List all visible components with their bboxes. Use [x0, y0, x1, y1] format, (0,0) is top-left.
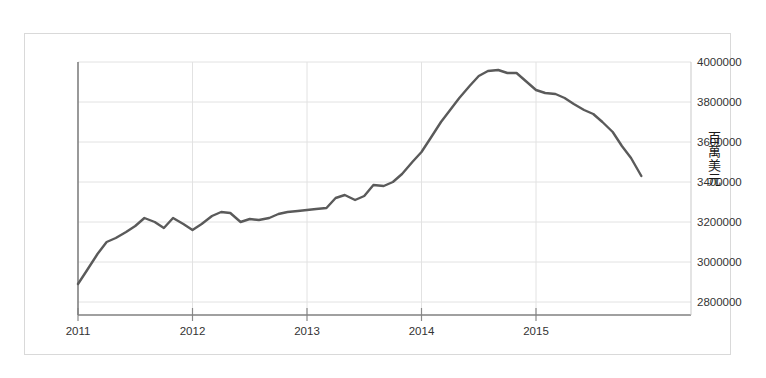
- chart-figure: 20112012201320142015 2800000300000032000…: [0, 0, 766, 378]
- y-tick-label: 3800000: [697, 96, 742, 108]
- y-axis-unit-label: 百萬美元: [700, 131, 720, 241]
- y-tick-label: 2800000: [697, 296, 742, 308]
- y-tick-label: 4000000: [697, 56, 742, 68]
- line-chart-svg: 20112012201320142015 2800000300000032000…: [0, 0, 766, 378]
- x-tick-labels-group: 20112012201320142015: [66, 325, 549, 337]
- x-tick-label: 2014: [409, 325, 435, 337]
- x-tick-label: 2011: [66, 325, 91, 337]
- x-tick-label: 2013: [294, 325, 320, 337]
- plot-wrapper: 20112012201320142015 2800000300000032000…: [0, 0, 766, 378]
- y-tick-label: 3000000: [697, 256, 742, 268]
- x-tick-label: 2015: [523, 325, 549, 337]
- x-tick-label: 2012: [180, 325, 206, 337]
- gridlines-group: [78, 62, 691, 315]
